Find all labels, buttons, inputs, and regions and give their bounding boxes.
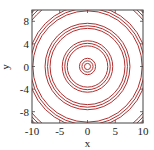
contour-chart: -10-50510 -8-4048 x y: [0, 0, 154, 150]
contour-line: [62, 41, 113, 92]
x-tick-label: 5: [113, 125, 119, 137]
contour-line: [16, 0, 154, 140]
contour-line: [82, 61, 93, 72]
x-tick-label: 0: [85, 125, 91, 137]
contour-line: [45, 23, 130, 109]
contour-line: [48, 26, 128, 107]
contour-line: [65, 43, 111, 89]
y-tick-label: -4: [20, 83, 30, 95]
y-tick-label: -8: [20, 106, 30, 118]
contour-line: [33, 11, 142, 122]
x-axis-label: x: [85, 137, 91, 149]
contour-line: [50, 28, 125, 104]
y-tick-label: 0: [24, 61, 30, 73]
x-tick-label: -5: [55, 125, 65, 137]
x-tick-label: 10: [138, 125, 150, 137]
x-tick-label: -10: [25, 125, 40, 137]
y-tick-label: 4: [24, 38, 30, 50]
contour-line: [84, 63, 90, 69]
contour-line: [28, 6, 147, 127]
contour-line: [67, 46, 108, 87]
y-axis-label: y: [0, 64, 11, 70]
y-tick-label: 8: [24, 15, 30, 27]
